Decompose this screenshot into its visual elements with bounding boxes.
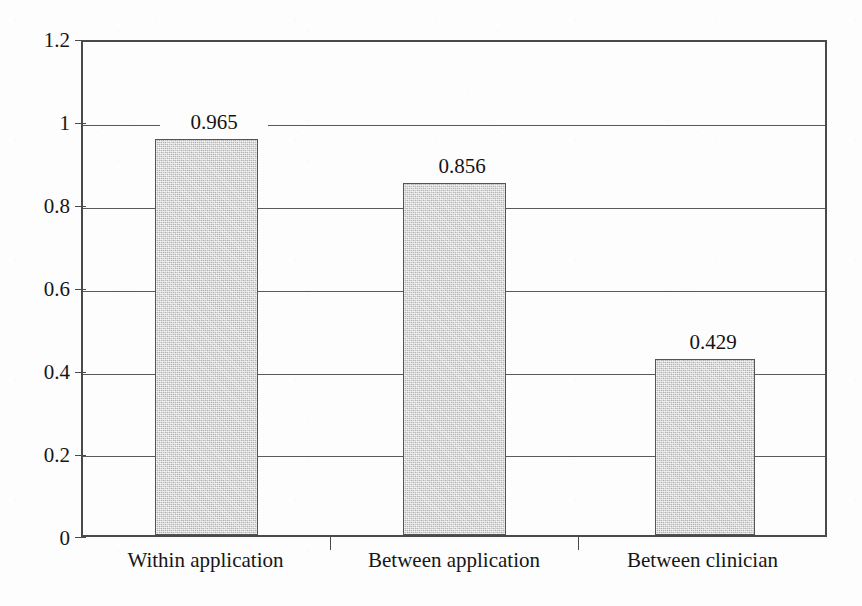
y-tick-label-0: 0 bbox=[60, 528, 71, 549]
bar-between-application[interactable] bbox=[403, 183, 506, 535]
y-tick-label-0.4: 0.4 bbox=[44, 362, 70, 383]
y-axis: 1.2 1 0.8 0.6 0.4 0.2 0 bbox=[0, 0, 70, 606]
y-tick-mark-0 bbox=[75, 537, 86, 538]
y-tick-label-1.2: 1.2 bbox=[44, 30, 70, 51]
y-tick-label-0.6: 0.6 bbox=[44, 279, 70, 300]
y-tick-label-0.2: 0.2 bbox=[44, 445, 70, 466]
data-label-between-clinician: 0.429 bbox=[659, 330, 767, 355]
x-axis-label-between-application: Between application bbox=[330, 549, 578, 572]
bar-chart-figure: 1.2 1 0.8 0.6 0.4 0.2 0 0.965 0.856 0.42… bbox=[0, 0, 862, 606]
y-tick-label-1: 1 bbox=[60, 113, 71, 134]
bar-between-clinician[interactable] bbox=[655, 359, 755, 535]
y-tick-label-0.8: 0.8 bbox=[44, 196, 70, 217]
data-label-within-application: 0.965 bbox=[160, 110, 268, 135]
data-label-between-application: 0.856 bbox=[408, 154, 516, 179]
x-axis-label-between-clinician: Between clinician bbox=[578, 549, 827, 572]
x-axis-label-within-application: Within application bbox=[81, 549, 330, 572]
bar-within-application[interactable] bbox=[155, 139, 258, 536]
